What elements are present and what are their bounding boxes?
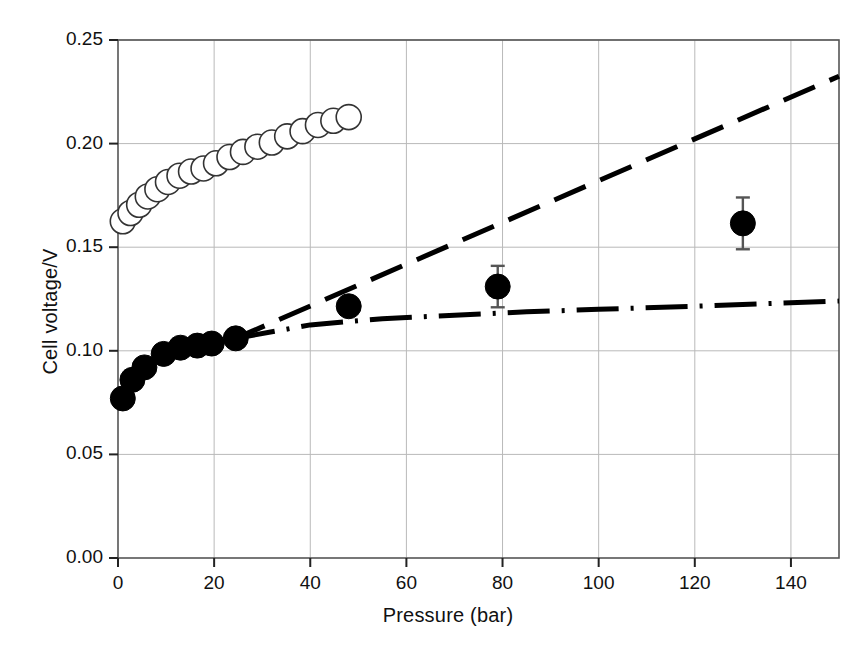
chart-figure: Cell voltage/V Pressure (bar) 0.000.050.… (0, 0, 868, 654)
data-point-filled-circle (336, 294, 361, 319)
axis-ticks (109, 40, 791, 567)
data-point-filled-circle (485, 274, 510, 299)
plot-canvas (0, 0, 868, 654)
data-point-filled-circle (730, 211, 755, 236)
data-point-filled-circle (199, 331, 224, 356)
series-open-circles (110, 105, 361, 234)
dash-dot-line-path (233, 301, 839, 339)
axes-border (118, 40, 839, 558)
gridlines (118, 40, 839, 558)
data-point-filled-circle (223, 326, 248, 351)
data-point-open-circle (336, 105, 361, 130)
series-filled-circles (110, 197, 755, 410)
plot-frame (118, 40, 839, 558)
series-dash-dot-model-line (233, 301, 839, 339)
